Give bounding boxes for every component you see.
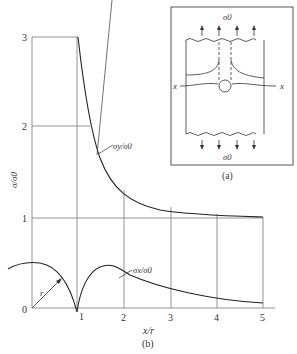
inset-stress-bottom: σ0 [223, 152, 232, 162]
sigma-y-label: σy/σ0 [113, 141, 133, 151]
inset-plate-diagram: σ0 σ0 x x [171, 7, 293, 165]
caption-b: (b) [142, 338, 154, 350]
inset-x-right: x [279, 81, 284, 91]
x-tick-3: 3 [168, 312, 173, 323]
x-axis-label: x/r [142, 325, 154, 336]
inset-stress-top: σ0 [223, 12, 232, 22]
stress-concentration-figure: 3 2 1 0 σ/σ0 1 2 3 4 5 x/r (b) σy/σ0 σx/… [0, 0, 297, 354]
x-tick-1: 1 [79, 311, 84, 322]
origin-label: 0 [22, 304, 27, 315]
label-leaders [97, 0, 132, 278]
y-tick-2: 2 [22, 121, 27, 132]
radius-label: r [40, 288, 44, 298]
radius-arrow [32, 278, 62, 308]
x-tick-5: 5 [260, 312, 265, 323]
x-tick-4: 4 [214, 312, 219, 323]
plot-grid [32, 37, 275, 308]
y-tick-1: 1 [22, 213, 27, 224]
x-tick-2: 2 [121, 312, 126, 323]
y-tick-3: 3 [22, 32, 27, 43]
y-axis-label: σ/σ0 [9, 172, 19, 188]
inset-x-left: x [172, 81, 177, 91]
caption-a: (a) [222, 171, 233, 182]
sigma-x-label: σx/σ0 [133, 265, 153, 275]
